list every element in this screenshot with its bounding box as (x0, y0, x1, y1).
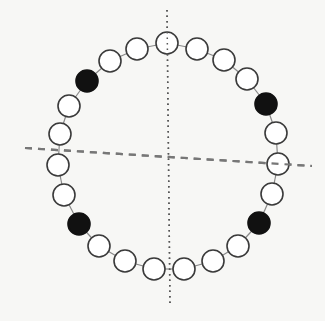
open-bead (49, 123, 71, 145)
open-bead (186, 38, 208, 60)
open-bead (143, 258, 165, 280)
open-bead (265, 122, 287, 144)
open-bead (227, 235, 249, 257)
open-bead (99, 50, 121, 72)
filled-bead (255, 93, 277, 115)
open-bead (202, 250, 224, 272)
open-bead (156, 32, 178, 54)
bead-ring-diagram (0, 0, 325, 321)
open-bead (126, 38, 148, 60)
filled-bead (248, 212, 270, 234)
open-bead (53, 184, 75, 206)
open-bead (213, 49, 235, 71)
open-bead (236, 68, 258, 90)
filled-bead (68, 213, 90, 235)
open-bead (114, 250, 136, 272)
open-bead (58, 95, 80, 117)
open-bead (261, 183, 283, 205)
open-bead (173, 258, 195, 280)
open-bead (47, 154, 69, 176)
diagram-svg (0, 0, 325, 321)
open-bead (88, 235, 110, 257)
filled-bead (76, 70, 98, 92)
